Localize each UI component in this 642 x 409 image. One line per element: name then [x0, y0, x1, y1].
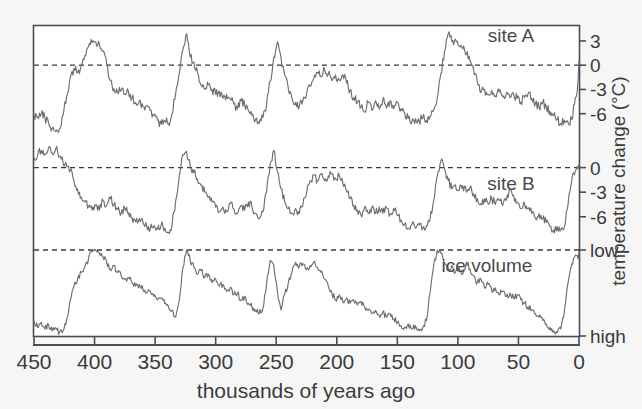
x-tick-label-300: 300	[198, 350, 233, 373]
x-tick-label-400: 400	[77, 350, 112, 373]
chart-svg: site A site B ice volume 30-3-60-3-6lowh…	[0, 0, 642, 409]
series-label-site-b: site B	[487, 173, 535, 194]
series-label-ice-volume: ice volume	[442, 255, 533, 276]
y-tick-label-b--6: -6	[590, 207, 607, 228]
x-tick-label-450: 450	[16, 350, 51, 373]
y-tick-label-a-3: 3	[590, 31, 601, 52]
y-tick-label-a--3: -3	[590, 79, 607, 100]
x-axis-title: thousands of years ago	[197, 379, 415, 402]
series-label-site-a: site A	[488, 25, 535, 46]
y-tick-label-b--3: -3	[590, 182, 607, 203]
x-tick-label-250: 250	[259, 350, 294, 373]
climate-proxy-chart: site A site B ice volume 30-3-60-3-6lowh…	[0, 0, 642, 409]
y-axis-title: temperature change (°C)	[608, 76, 629, 285]
y-tick-label-a--6: -6	[590, 104, 607, 125]
x-tick-label-200: 200	[319, 350, 354, 373]
x-tick-label-0: 0	[573, 350, 585, 373]
x-tick-label-100: 100	[440, 350, 475, 373]
y-tick-label-a-0: 0	[590, 55, 601, 76]
y-tick-label-ice-high: high	[590, 326, 626, 347]
x-tick-label-150: 150	[380, 350, 415, 373]
x-tick-label-350: 350	[138, 350, 173, 373]
figure-page: site A site B ice volume 30-3-60-3-6lowh…	[0, 0, 642, 409]
y-tick-label-b-0: 0	[590, 158, 601, 179]
x-tick-label-50: 50	[507, 350, 530, 373]
